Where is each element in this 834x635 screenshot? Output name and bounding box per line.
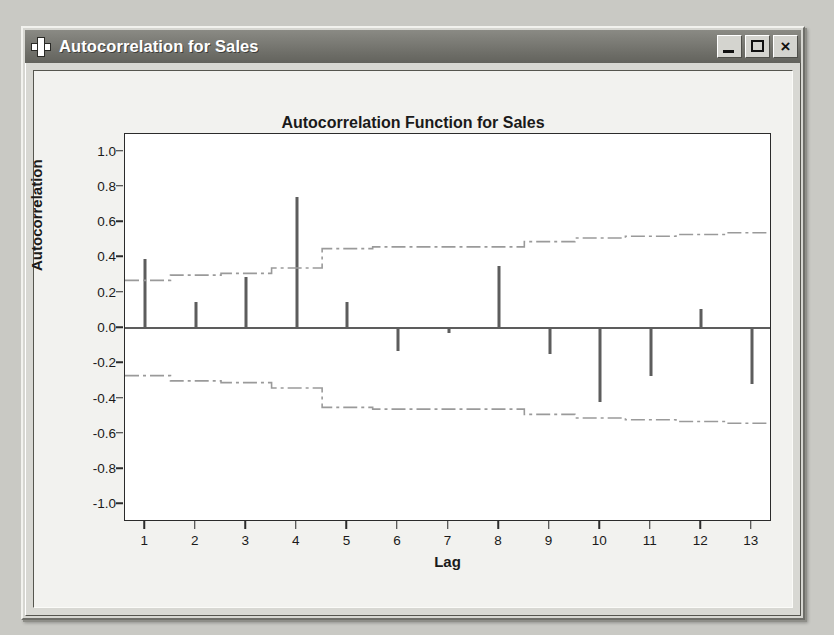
x-tick-mark	[447, 521, 449, 529]
y-tick-mark	[116, 432, 123, 434]
x-tick-label: 4	[292, 533, 300, 548]
title-bar[interactable]: Autocorrelation for Sales ×	[25, 30, 801, 63]
x-tick-mark	[497, 521, 499, 529]
x-tick-label: 5	[343, 533, 351, 548]
x-tick-mark	[295, 521, 297, 529]
acf-bar	[447, 328, 450, 333]
plot-area	[124, 133, 771, 521]
minimize-button[interactable]	[717, 35, 742, 58]
chart-panel: Autocorrelation Function for Sales Autoc…	[33, 70, 793, 608]
y-tick-label: -1.0	[72, 496, 116, 511]
acf-bar	[245, 277, 248, 328]
y-tick-label: -0.4	[72, 390, 116, 405]
x-tick-mark	[598, 521, 600, 529]
x-tick-label: 3	[242, 533, 250, 548]
close-icon: ×	[774, 36, 797, 57]
y-tick-mark	[116, 326, 123, 328]
x-tick-mark	[143, 521, 145, 529]
x-tick-label: 12	[693, 533, 708, 548]
y-tick-label: -0.2	[72, 355, 116, 370]
maximize-button[interactable]	[745, 35, 770, 58]
x-tick-label: 10	[592, 533, 607, 548]
y-tick-label: 0.6	[72, 214, 116, 229]
acf-bar	[649, 328, 652, 376]
chart-title: Autocorrelation Function for Sales	[34, 114, 792, 132]
y-tick-label: 0.4	[72, 249, 116, 264]
plus-icon	[30, 36, 52, 58]
y-tick-label: 1.0	[72, 143, 116, 158]
y-tick-mark	[116, 397, 123, 399]
x-tick-mark	[699, 521, 701, 529]
acf-bar	[498, 266, 501, 328]
x-tick-label: 9	[545, 533, 553, 548]
acf-bar	[144, 259, 147, 328]
x-tick-mark	[649, 521, 651, 529]
x-tick-label: 1	[140, 533, 148, 548]
y-tick-mark	[116, 503, 123, 505]
x-tick-mark	[548, 521, 550, 529]
y-tick-mark	[116, 362, 123, 364]
x-tick-mark	[245, 521, 247, 529]
lower-significance-limit	[125, 376, 771, 424]
acf-bar	[295, 197, 298, 328]
x-tick-label: 6	[393, 533, 401, 548]
x-tick-label: 11	[643, 533, 657, 548]
x-tick-label: 2	[191, 533, 199, 548]
x-tick-mark	[750, 521, 752, 529]
window-controls: ×	[717, 35, 798, 58]
screen: Autocorrelation for Sales × Autocorrelat…	[0, 0, 834, 635]
acf-bar	[194, 302, 197, 328]
x-tick-label: 8	[494, 533, 502, 548]
y-tick-mark	[116, 185, 123, 187]
acf-bar	[396, 328, 399, 351]
y-tick-label: 0.0	[72, 320, 116, 335]
y-tick-mark	[116, 150, 123, 152]
window-title: Autocorrelation for Sales	[59, 37, 717, 56]
x-tick-mark	[194, 521, 196, 529]
y-tick-label: 0.8	[72, 178, 116, 193]
acf-bar	[750, 328, 753, 384]
acf-bar	[599, 328, 602, 402]
y-tick-mark	[116, 220, 123, 222]
acf-bar	[548, 328, 551, 354]
x-tick-label: 7	[444, 533, 452, 548]
y-axis-label: Autocorrelation	[28, 159, 45, 271]
upper-significance-limit	[125, 233, 771, 281]
y-tick-label: 0.2	[72, 284, 116, 299]
acf-bar	[346, 302, 349, 328]
close-button[interactable]: ×	[773, 35, 798, 58]
x-tick-label: 13	[743, 533, 758, 548]
y-tick-mark	[116, 467, 123, 469]
x-tick-mark	[396, 521, 398, 529]
x-tick-mark	[346, 521, 348, 529]
application-window: Autocorrelation for Sales × Autocorrelat…	[21, 26, 805, 620]
y-tick-label: -0.8	[72, 461, 116, 476]
y-tick-mark	[116, 256, 123, 258]
x-axis-label: Lag	[124, 553, 771, 570]
acf-bar	[700, 309, 703, 328]
y-tick-label: -0.6	[72, 425, 116, 440]
y-tick-mark	[116, 291, 123, 293]
